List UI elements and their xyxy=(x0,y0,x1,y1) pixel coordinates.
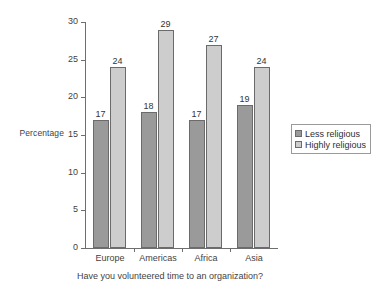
legend-swatch-icon-less-religious xyxy=(295,130,302,137)
y-tick-label: 10 xyxy=(58,168,78,177)
y-tick-label: 25 xyxy=(58,55,78,64)
bar-africa-less-religious xyxy=(189,120,205,248)
y-tick-label: 0 xyxy=(58,243,78,252)
x-category-label-europe: Europe xyxy=(86,253,134,263)
bar-chart: Percentage 051015202530 1724182917271924… xyxy=(0,0,389,290)
legend-label-less-religious: Less religious xyxy=(305,129,360,139)
chart-legend: Less religious Highly religious xyxy=(291,124,371,154)
y-tick-mark xyxy=(81,210,85,211)
legend-swatch-icon-highly-religious xyxy=(295,141,302,148)
x-tick-mark xyxy=(230,248,231,252)
bar-asia-highly-religious xyxy=(254,67,270,248)
bar-value-label: 19 xyxy=(234,94,256,104)
x-category-label-africa: Africa xyxy=(182,253,230,263)
y-tick-mark xyxy=(81,22,85,23)
y-tick-mark xyxy=(81,248,85,249)
y-tick-label: 15 xyxy=(58,130,78,139)
x-tick-mark xyxy=(134,248,135,252)
bar-americas-highly-religious xyxy=(158,30,174,248)
bar-value-label: 29 xyxy=(155,19,177,29)
y-tick-label: 30 xyxy=(58,17,78,26)
y-tick-mark xyxy=(81,60,85,61)
y-tick-mark xyxy=(81,135,85,136)
y-axis-title: Percentage xyxy=(4,128,64,138)
plot-area: 1724182917271924 xyxy=(86,22,278,248)
x-category-label-americas: Americas xyxy=(134,253,182,263)
bar-value-label: 17 xyxy=(90,109,112,119)
legend-item-highly-religious: Highly religious xyxy=(295,139,366,150)
bar-value-label: 17 xyxy=(186,109,208,119)
bar-value-label: 27 xyxy=(203,34,225,44)
bar-europe-highly-religious xyxy=(110,67,126,248)
bar-value-label: 18 xyxy=(138,101,160,111)
x-category-label-asia: Asia xyxy=(230,253,278,263)
y-tick-mark xyxy=(81,173,85,174)
bar-asia-less-religious xyxy=(237,105,253,248)
legend-label-highly-religious: Highly religious xyxy=(305,140,366,150)
bar-europe-less-religious xyxy=(93,120,109,248)
y-tick-label: 20 xyxy=(58,92,78,101)
x-axis-caption: Have you volunteered time to an organiza… xyxy=(0,271,340,281)
x-tick-mark xyxy=(182,248,183,252)
bar-value-label: 24 xyxy=(251,56,273,66)
legend-item-less-religious: Less religious xyxy=(295,128,366,139)
bar-africa-highly-religious xyxy=(206,45,222,248)
y-tick-mark xyxy=(81,97,85,98)
bar-americas-less-religious xyxy=(141,112,157,248)
y-tick-label: 5 xyxy=(58,205,78,214)
bar-value-label: 24 xyxy=(107,56,129,66)
